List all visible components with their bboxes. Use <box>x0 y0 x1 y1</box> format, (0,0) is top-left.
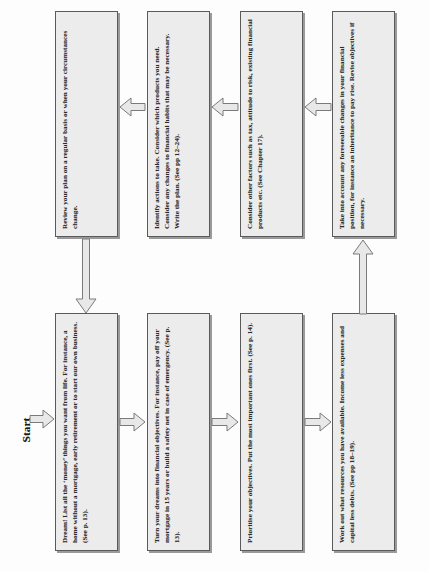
connector-review-to-dream <box>74 238 98 314</box>
node-other-factors[interactable]: Consider other factors such as tax, atti… <box>240 11 303 237</box>
node-foreseeable-changes-text: Take into account any foreseeable change… <box>336 19 367 229</box>
node-review-text: Review your plan on a regular basis or w… <box>59 19 79 229</box>
node-objectives-text: Turn your dreams into financial objectiv… <box>151 321 182 543</box>
connector-objectives-to-prioritise <box>211 411 239 433</box>
node-foreseeable-changes[interactable]: Take into account any foreseeable change… <box>332 11 395 237</box>
node-dream-text: Dream! List all the ‘money’ things you w… <box>59 321 90 543</box>
node-prioritise-text: Prioritise your objectives. Put the most… <box>244 323 254 543</box>
connector-foreseeable-to-other-factors <box>304 96 332 118</box>
connector-start-to-dream <box>29 408 55 430</box>
connector-prioritise-to-resources <box>304 411 332 433</box>
node-objectives[interactable]: Turn your dreams into financial objectiv… <box>147 313 210 551</box>
connector-identify-to-review <box>119 96 146 118</box>
connector-other-factors-to-identify <box>211 96 239 118</box>
node-resources-text: Work out what resources you have availab… <box>336 321 356 543</box>
node-resources[interactable]: Work out what resources you have availab… <box>332 313 395 551</box>
node-dream[interactable]: Dream! List all the ‘money’ things you w… <box>55 313 118 551</box>
node-other-factors-text: Consider other factors such as tax, atti… <box>244 19 264 229</box>
node-identify-actions-text: Identify actions to take. Consider which… <box>151 19 182 229</box>
flowchart-canvas: Start Dream! List all the ‘money’ things… <box>0 0 429 572</box>
node-review[interactable]: Review your plan on a regular basis or w… <box>55 11 118 237</box>
node-prioritise[interactable]: Prioritise your objectives. Put the most… <box>240 313 303 551</box>
connector-resources-to-foreseeable <box>351 239 375 315</box>
node-identify-actions[interactable]: Identify actions to take. Consider which… <box>147 11 210 237</box>
connector-dream-to-objectives <box>119 411 146 433</box>
